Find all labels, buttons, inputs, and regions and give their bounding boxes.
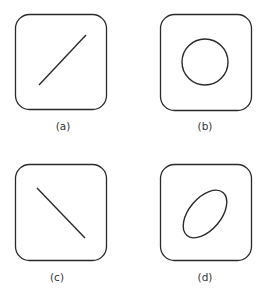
tilted-ellipse-shape — [175, 182, 236, 245]
panel-d: (d) — [161, 165, 252, 284]
panel-a: (a) — [16, 15, 107, 133]
negative-slope-line — [37, 188, 85, 238]
panel-d-frame — [161, 165, 252, 261]
panel-b-label: (b) — [198, 120, 213, 132]
panel-b: (b) — [161, 15, 252, 133]
panel-c: (c) — [16, 165, 107, 284]
figure-diagram: (a) (b) (c) (d) — [0, 0, 266, 299]
panel-c-label: (c) — [50, 271, 64, 283]
panel-b-frame — [161, 15, 252, 111]
panel-d-label: (d) — [198, 271, 213, 283]
positive-slope-line — [39, 35, 86, 85]
panel-a-label: (a) — [56, 120, 71, 132]
circle-shape — [182, 39, 228, 85]
